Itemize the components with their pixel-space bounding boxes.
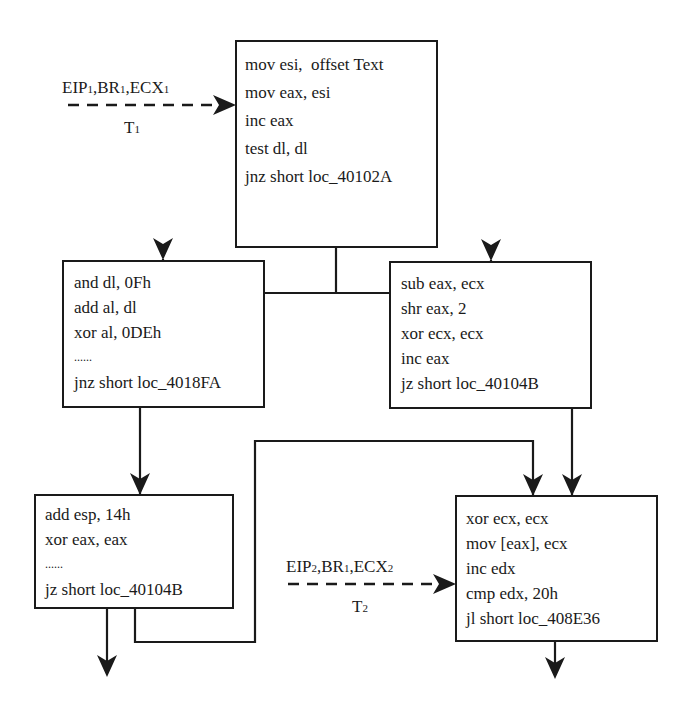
instruction: mov esi, offset Text — [245, 51, 428, 79]
block-bot-left: add esp, 14h xor eax, eax ...... jz shor… — [34, 494, 234, 609]
instruction: ...... — [74, 345, 255, 370]
thread-t2-name: T2 — [352, 597, 368, 617]
instruction: xor ecx, ecx — [466, 506, 648, 531]
instruction: add esp, 14h — [45, 502, 224, 527]
thread-t1-name: T1 — [124, 118, 140, 138]
instruction: inc eax — [245, 107, 428, 135]
instruction: cmp edx, 20h — [466, 581, 648, 606]
instruction: xor al, 0DEh — [74, 320, 255, 345]
instruction: ...... — [45, 552, 224, 577]
instruction: shr eax, 2 — [401, 296, 582, 321]
instruction: mov [eax], ecx — [466, 531, 648, 556]
thread-t1-state: EIP1,BR1,ECX1 — [62, 78, 169, 98]
instruction: test dl, dl — [245, 135, 428, 163]
instruction: jnz short loc_40102A — [245, 163, 428, 191]
instruction: jl short loc_408E36 — [466, 606, 648, 631]
instruction: add al, dl — [74, 295, 255, 320]
instruction: inc eax — [401, 346, 582, 371]
instruction: mov eax, esi — [245, 79, 428, 107]
instruction: inc edx — [466, 556, 648, 581]
block-bot-right: xor ecx, ecx mov [eax], ecx inc edx cmp … — [455, 495, 658, 642]
instruction: jz short loc_40104B — [45, 577, 224, 602]
thread-t2-state: EIP2,BR1,ECX2 — [286, 557, 393, 577]
instruction: xor eax, eax — [45, 527, 224, 552]
block-mid-left: and dl, 0Fh add al, dl xor al, 0DEh ....… — [62, 260, 265, 408]
block-top: mov esi, offset Text mov eax, esi inc ea… — [235, 40, 438, 248]
instruction: sub eax, ecx — [401, 271, 582, 296]
block-mid-right: sub eax, ecx shr eax, 2 xor ecx, ecx inc… — [389, 261, 592, 409]
instruction: jz short loc_40104B — [401, 371, 582, 396]
instruction: jnz short loc_4018FA — [74, 370, 255, 395]
instruction: and dl, 0Fh — [74, 270, 255, 295]
instruction: xor ecx, ecx — [401, 321, 582, 346]
